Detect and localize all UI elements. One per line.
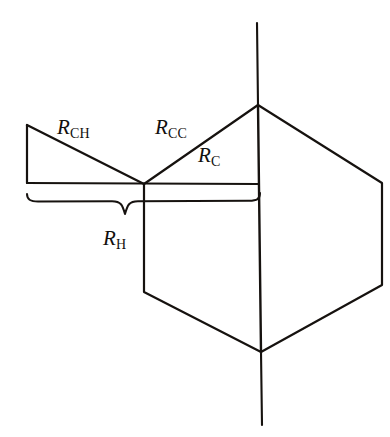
label-r-ch-symbol: R bbox=[57, 115, 70, 139]
label-r-c-symbol: R bbox=[198, 143, 211, 167]
label-r-h-symbol: R bbox=[103, 226, 116, 250]
benzene-hexagon bbox=[144, 105, 382, 352]
label-r-h-subscript: H bbox=[116, 237, 126, 252]
label-r-c: RC bbox=[198, 145, 220, 166]
label-r-ch-subscript: CH bbox=[70, 126, 90, 141]
diagram-canvas: RCH RCC RC RH bbox=[0, 0, 390, 437]
molecule-diagram-svg bbox=[0, 0, 390, 437]
label-r-h: RH bbox=[103, 228, 126, 249]
label-r-cc-subscript: CC bbox=[168, 126, 187, 141]
label-r-ch: RCH bbox=[57, 117, 90, 138]
label-r-cc-symbol: R bbox=[155, 115, 168, 139]
vertical-axis-upper-line bbox=[257, 23, 258, 105]
vertical-axis-lower-line bbox=[261, 352, 262, 425]
label-r-c-subscript: C bbox=[211, 154, 220, 169]
vertical-axis-through-ring-line bbox=[258, 105, 261, 352]
label-r-cc: RCC bbox=[155, 117, 187, 138]
